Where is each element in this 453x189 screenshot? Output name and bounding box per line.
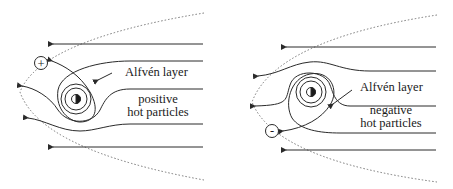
charge-symbol-positive: + [37, 57, 44, 71]
alfven-layer-label: Alfvén layer [360, 80, 424, 94]
alfven-layer-label: Alfvén layer [125, 65, 189, 79]
particles-label-line1: positive [138, 92, 178, 106]
earth-icon [72, 95, 81, 104]
arrow-pointer [333, 90, 352, 104]
arrow-pointer [98, 73, 112, 80]
right-panel-negative [252, 15, 437, 182]
field-line [28, 118, 203, 131]
particles-label-line2: hot particles [360, 116, 422, 130]
magnetopause-boundary [252, 15, 437, 182]
magnetosphere-diagram: + Alfvén layer positive hot particles - … [0, 0, 453, 189]
earth-icon [307, 88, 316, 97]
particles-label-line2: hot particles [127, 105, 189, 119]
particles-label-line1: negative [370, 103, 413, 117]
charge-symbol-negative: - [270, 124, 274, 138]
